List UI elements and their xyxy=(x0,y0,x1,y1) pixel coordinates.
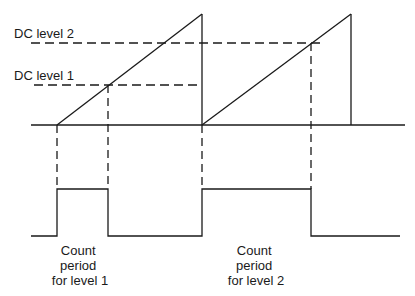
count-pulse-waveform xyxy=(31,189,400,236)
caption-level-2: Count period for level 2 xyxy=(228,243,284,288)
dc-level-1-label: DC level 1 xyxy=(14,68,74,83)
timing-diagram: DC level 2 DC level 1 Count period for l… xyxy=(0,0,415,296)
ramp-2-slope xyxy=(202,14,351,125)
ramp-1-slope xyxy=(57,14,202,125)
dc-level-2-label: DC level 2 xyxy=(14,26,74,41)
caption-level-1: Count period for level 1 xyxy=(52,243,108,288)
